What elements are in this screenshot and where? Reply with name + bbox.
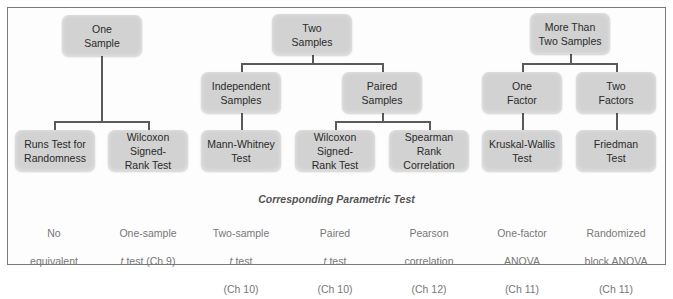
param-line2: equivalent (9, 254, 99, 268)
param-line2: block ANOVA (571, 254, 661, 268)
parametric-caption: Corresponding Parametric Test (0, 193, 673, 205)
connector (616, 112, 618, 130)
param-line3: (Ch 12) (384, 282, 474, 296)
parametric-one-factor-anova: One-factor ANOVA (Ch 11) (477, 212, 567, 299)
connector (522, 63, 617, 65)
connector (241, 63, 383, 65)
param-line3: (Ch 11) (571, 282, 661, 296)
param-line2-text: test (Ch 9) (123, 255, 175, 267)
param-line2: t test (290, 254, 380, 268)
node-kruskal-wallis: Kruskal-Wallis Test (482, 130, 562, 171)
node-mann-whitney: Mann-Whitney Test (201, 130, 281, 171)
node-more-than-two-samples: More Than Two Samples (530, 13, 610, 54)
parametric-randomized-block-anova: Randomized block ANOVA (Ch 11) (571, 212, 661, 299)
param-line3: (Ch 10) (290, 282, 380, 296)
param-line1: Paired (290, 226, 380, 240)
node-paired-samples: Paired Samples (342, 72, 422, 113)
node-friedman: Friedman Test (576, 130, 656, 171)
connector (101, 56, 103, 122)
param-line1: One-sample (103, 226, 193, 240)
parametric-two-sample-t: Two-sample t test (Ch 10) (196, 212, 286, 299)
param-line2: ANOVA (477, 254, 567, 268)
param-line2: correlation (384, 254, 474, 268)
param-line2: t test (Ch 9) (103, 254, 193, 268)
connector (335, 121, 430, 123)
connector (570, 54, 572, 63)
connector (616, 63, 618, 72)
param-line3: (Ch 11) (477, 282, 567, 296)
node-wilcoxon-paired: Wilcoxon Signed- Rank Test (295, 130, 375, 171)
node-wilcoxon-one-sample: Wilcoxon Signed- Rank Test (108, 130, 188, 171)
connector (382, 63, 384, 72)
node-one-sample: One Sample (62, 15, 142, 56)
connector (241, 63, 243, 72)
connector (54, 121, 149, 123)
param-line1: Pearson (384, 226, 474, 240)
connector (54, 121, 56, 130)
parametric-no-equivalent: No equivalent (9, 212, 99, 282)
node-runs-test: Runs Test for Randomness (15, 130, 95, 171)
node-two-samples: Two Samples (272, 14, 352, 55)
param-line2-text: test (233, 255, 253, 267)
parametric-paired-t: Paired t test (Ch 10) (290, 212, 380, 299)
node-independent-samples: Independent Samples (201, 72, 281, 113)
param-line3: (Ch 10) (196, 282, 286, 296)
parametric-one-sample-t: One-sample t test (Ch 9) (103, 212, 193, 282)
param-line2: t test (196, 254, 286, 268)
node-one-factor: One Factor (482, 72, 562, 113)
node-two-factors: Two Factors (576, 72, 656, 113)
connector (382, 112, 384, 121)
param-line1: Two-sample (196, 226, 286, 240)
connector (522, 63, 524, 72)
connector (312, 55, 314, 63)
connector (522, 112, 524, 130)
param-line1: Randomized (571, 226, 661, 240)
parametric-pearson: Pearson correlation (Ch 12) (384, 212, 474, 299)
param-line1: One-factor (477, 226, 567, 240)
node-spearman: Spearman Rank Correlation (389, 130, 469, 171)
param-line1: No (9, 226, 99, 240)
param-line2-text: test (327, 255, 347, 267)
connector (241, 112, 243, 130)
